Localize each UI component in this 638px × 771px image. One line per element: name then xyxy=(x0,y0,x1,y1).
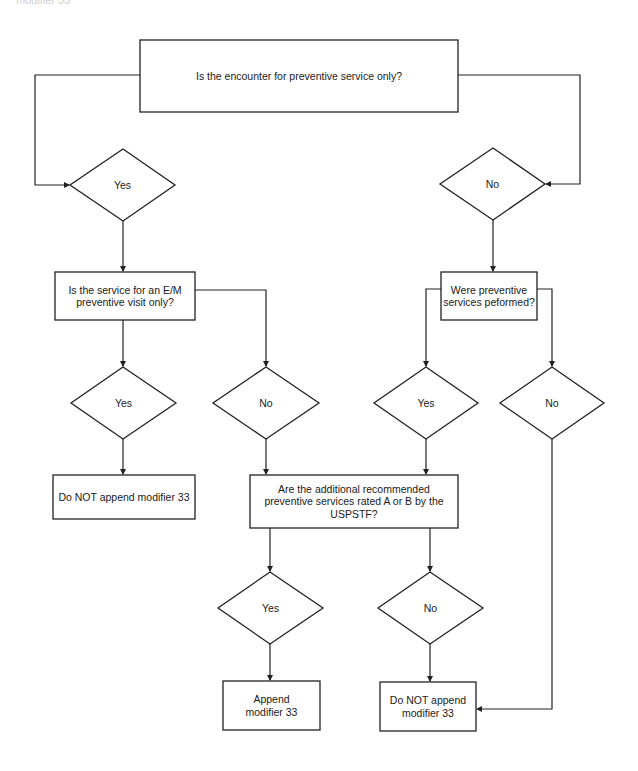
node-d-no1-label: No xyxy=(440,148,545,220)
node-d-yes2-label: Yes xyxy=(71,367,176,439)
node-d-yes4-label: Yes xyxy=(218,572,323,644)
node-d-yes3-label: Yes xyxy=(374,367,478,439)
node-d-no4-label: No xyxy=(378,572,483,644)
node-d-no3-label: No xyxy=(500,367,604,439)
node-d-yes1-label: Yes xyxy=(70,149,175,221)
node-r1-label: Do NOT append modifier 33 xyxy=(53,475,195,519)
node-q2-label: Is the service for an E/M preventive vis… xyxy=(62,272,188,320)
node-q4-label: Are the additional recommended preventiv… xyxy=(258,475,450,528)
node-r2-label: Append modifier 33 xyxy=(238,681,305,730)
node-q3-label: Were preventive services peformed? xyxy=(443,272,535,320)
node-q1-label: Is the encounter for preventive service … xyxy=(140,40,458,112)
node-r3-label: Do NOT append modifier 33 xyxy=(385,682,471,731)
node-d-no2-label: No xyxy=(213,367,319,439)
